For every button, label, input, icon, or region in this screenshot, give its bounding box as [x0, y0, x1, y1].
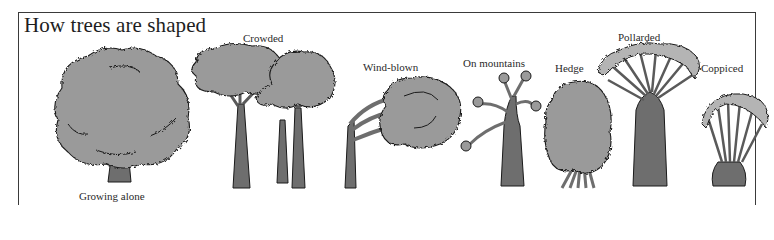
label-wind-blown: Wind-blown: [363, 61, 418, 73]
label-growing-alone: Growing alone: [79, 190, 145, 202]
label-coppiced: Coppiced: [701, 62, 743, 74]
tree-wind-blown-icon: [345, 77, 461, 188]
label-hedge: Hedge: [555, 62, 584, 74]
label-crowded: Crowded: [243, 32, 283, 44]
label-on-mountains: On mountains: [463, 57, 525, 69]
tree-on-mountains-icon: [461, 71, 541, 186]
tree-pollarded-icon: [598, 43, 700, 186]
tree-crowded-icon: [192, 43, 335, 188]
tree-growing-alone-icon: [55, 48, 190, 182]
tree-coppiced-icon: [702, 94, 768, 186]
tree-hedge-icon: [545, 81, 611, 188]
label-pollarded: Pollarded: [618, 31, 660, 43]
